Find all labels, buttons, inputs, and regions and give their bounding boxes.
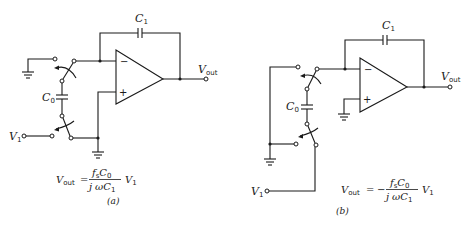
sampling-capacitor-c0-b <box>301 91 313 122</box>
switch-bottom-b <box>298 122 318 147</box>
inverting-input-sign-a: − <box>120 56 128 67</box>
inverting-input-sign-b: − <box>364 64 372 75</box>
v1-label-a: V1 <box>9 130 21 144</box>
diagram-b: C1 − + Vout <box>251 19 461 216</box>
c0-label-a: C0 <box>42 91 55 105</box>
svg-text:jωC1: jωC1 <box>384 191 412 204</box>
svg-text:V1: V1 <box>422 184 434 197</box>
ground-terminal-top-a <box>22 57 57 78</box>
caption-a: (a) <box>107 196 120 206</box>
feedback-capacitor-c1-b <box>345 35 424 87</box>
junction-node-b <box>343 67 346 70</box>
switch-top-a <box>54 59 76 83</box>
svg-text:Vout: Vout <box>341 184 360 197</box>
vout-terminal-b <box>448 85 452 89</box>
opamp-b: − + <box>360 58 407 112</box>
junction-node-a <box>98 59 101 62</box>
switched-capacitor-integrators-figure: C1 − + Vout <box>0 0 467 228</box>
left-ground-loop-b <box>264 65 300 165</box>
output-node-a <box>178 77 181 80</box>
svg-text:−: − <box>377 184 385 195</box>
v1-input-a <box>22 134 54 138</box>
switch-bottom-a <box>54 114 74 140</box>
noninverting-ground-b <box>338 99 360 120</box>
vout-label-a: Vout <box>198 63 218 77</box>
c0-label-b: C0 <box>286 100 299 114</box>
output-node-b <box>422 85 425 88</box>
sampling-capacitor-c0-a <box>56 83 68 114</box>
c1-label-b: C1 <box>382 19 395 33</box>
svg-text:fsC0: fsC0 <box>91 167 111 180</box>
svg-text:=: = <box>366 184 374 195</box>
noninverting-input-sign-b: + <box>363 94 371 105</box>
v1-label-b: V1 <box>251 185 263 199</box>
c1-label-a: C1 <box>135 12 148 26</box>
transfer-formula-b: Vout = − fsC0 jωC1 V1 <box>341 177 434 204</box>
feedback-capacitor-c1-a <box>100 28 180 79</box>
svg-text:fsC0: fsC0 <box>389 177 409 190</box>
noninverting-input-sign-a: + <box>119 87 127 98</box>
diagram-a: C1 − + Vout <box>9 12 218 206</box>
v1-input-b <box>265 147 315 193</box>
caption-b: (b) <box>336 206 349 216</box>
svg-text:V1: V1 <box>125 174 137 187</box>
vout-label-b: Vout <box>441 70 461 84</box>
switch-top-b <box>300 67 321 91</box>
svg-text:jωC1: jωC1 <box>87 181 115 194</box>
opamp-a: − + <box>116 50 163 104</box>
svg-text:=: = <box>80 174 88 185</box>
svg-text:Vout: Vout <box>56 174 75 187</box>
vout-terminal-a <box>204 77 208 81</box>
noninverting-ground-a <box>73 92 116 158</box>
transfer-formula-a: Vout = fsC0 jωC1 V1 <box>56 167 137 194</box>
